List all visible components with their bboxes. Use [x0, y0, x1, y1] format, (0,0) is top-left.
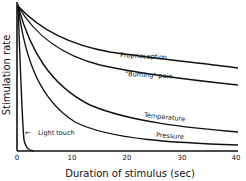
label-burning-pain: "Burning" pain	[125, 70, 173, 80]
x-tick-20: 20	[123, 154, 132, 162]
label-light-touch: Light touch	[38, 129, 75, 137]
x-tick-40: 40	[232, 154, 241, 162]
x-axis-label: Duration of stimulus (sec)	[65, 168, 195, 179]
label-pressure: Pressure	[156, 131, 184, 141]
chart: 0 10 20 30 40 Duration of stimulus (sec)…	[0, 0, 246, 181]
x-tick-30: 30	[178, 154, 187, 162]
x-tick-0: 0	[15, 154, 19, 162]
arrow-light-touch: ←	[25, 129, 31, 137]
label-proprioception: Proprioception	[120, 51, 167, 61]
curve-temperature	[18, 6, 238, 132]
y-axis-label: Stimulation rate	[1, 35, 12, 116]
x-tick-10: 10	[68, 154, 77, 162]
